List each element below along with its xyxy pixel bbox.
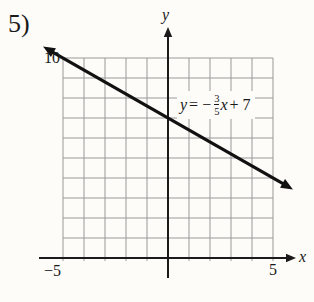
y-axis-arrowhead — [164, 27, 172, 37]
graph-figure: 5) y x 10 −5 5 y = − 3 5 x + 7 — [0, 0, 314, 302]
graph-canvas — [0, 0, 314, 302]
x-axis-arrowhead — [286, 254, 296, 262]
